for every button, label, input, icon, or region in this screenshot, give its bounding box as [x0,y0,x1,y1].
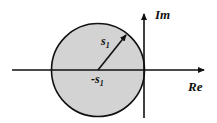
real-axis-label: Re [187,79,203,94]
radius-label-sub: 1 [106,41,110,50]
complex-plane-diagram: Im Re s1 -s1 [0,0,217,123]
center-label-main: -s [91,72,100,86]
imag-axis-label: Im [154,7,170,22]
center-label-sub: 1 [100,79,104,88]
